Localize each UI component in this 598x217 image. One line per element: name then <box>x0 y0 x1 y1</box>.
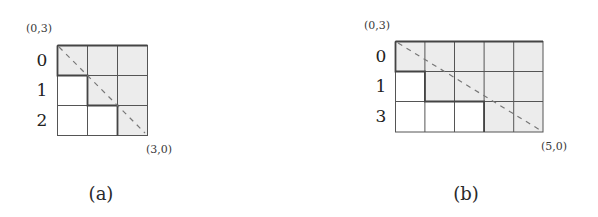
row-label-1: 1 <box>371 71 391 101</box>
top-left-coordinate-label: (0,3) <box>364 19 390 32</box>
panel-b: (0,3) 0 1 3 (5,0) (b) <box>0 0 598 217</box>
grid-b <box>395 41 544 133</box>
panel-caption-b: (b) <box>453 183 479 204</box>
row-label-0: 0 <box>371 41 391 71</box>
row-label-3: 3 <box>371 101 391 131</box>
bottom-right-coordinate-label: (5,0) <box>541 140 567 153</box>
